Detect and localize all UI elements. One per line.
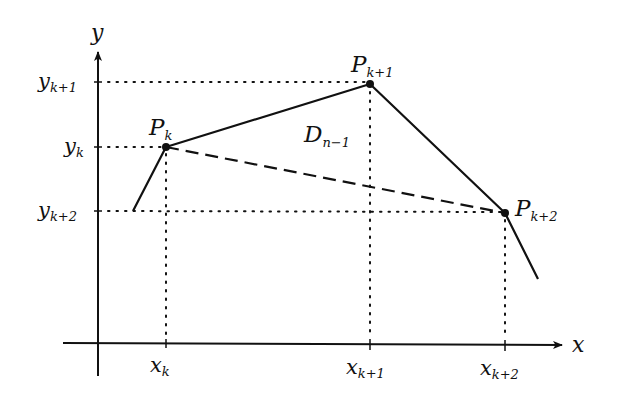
dashed-chord [166, 147, 505, 213]
point-pk2 [501, 209, 509, 217]
point-label-pk: Pk [148, 114, 172, 143]
diagram-canvas: y x yk+1 yk yk+2 xk xk+1 xk+2 Pk Pk+1 Pk… [0, 0, 622, 399]
x-axis [63, 343, 562, 345]
guide-h-yk2 [108, 211, 500, 212]
point-pk [162, 143, 170, 151]
y-tick-label-k: yk [63, 134, 84, 160]
y-tick-label-k+2: yk+2 [37, 198, 77, 224]
x-tick-label-k+1: xk+1 [346, 355, 385, 381]
segment-label-dn1: Dn−1 [303, 121, 350, 150]
y-tick-label-k+1: yk+1 [37, 69, 77, 95]
point-label-pk2: Pk+2 [514, 195, 558, 224]
polyline-curve [133, 84, 538, 279]
polyline-approximation-diagram: y x yk+1 yk yk+2 xk xk+1 xk+2 Pk Pk+1 Pk… [0, 0, 622, 399]
x-tick-label-k: xk [150, 353, 170, 379]
y-axis-label: y [90, 20, 104, 45]
x-axis-label: x [572, 332, 585, 357]
x-tick-label-k+2: xk+2 [480, 356, 519, 382]
point-label-pk1: Pk+1 [350, 51, 394, 80]
point-pk1 [366, 80, 374, 88]
